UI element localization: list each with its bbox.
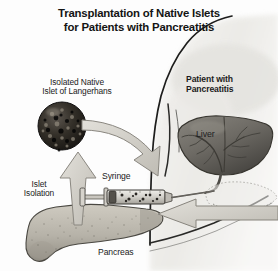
illustration-canvas xyxy=(0,0,278,271)
label-liver: Liver xyxy=(196,130,215,140)
label-isolated-islet: Isolated Native Islet of Langerhans xyxy=(19,78,135,97)
medical-illustration-figure: Transplantation of Native Isletsfor Pati… xyxy=(0,0,278,271)
isolated-islet-sphere xyxy=(38,102,86,152)
label-pancreas: Pancreas xyxy=(98,248,134,258)
figure-title-line2: for Patients with Pancreatitis xyxy=(64,21,214,33)
pancreas-organ xyxy=(26,204,163,261)
label-patient-with-pancreatitis: Patient with Pancreatitis xyxy=(186,74,234,95)
islet-to-syringe-arrow xyxy=(82,120,160,176)
label-islet-isolation: Islet Isolation xyxy=(12,180,66,199)
figure-title-line1: Transplantation of Native Islets xyxy=(58,7,220,19)
figure-title: Transplantation of Native Isletsfor Pati… xyxy=(0,6,278,35)
label-syringe: Syringe xyxy=(102,172,130,182)
